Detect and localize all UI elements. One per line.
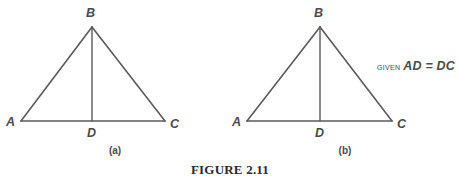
figure-canvas: B A C D (a) B A C D (b) GIVENAD = DC FIG…	[0, 0, 460, 186]
given-equation: AD = DC	[403, 59, 455, 73]
vertex-label-a: A	[232, 116, 241, 129]
segment-bc	[320, 27, 392, 121]
vertex-label-d: D	[315, 127, 324, 140]
vertex-label-c: C	[170, 118, 179, 131]
given-annotation: GIVENAD = DC	[377, 57, 455, 73]
given-keyword: GIVEN	[377, 64, 400, 71]
vertex-label-d: D	[87, 127, 96, 140]
segment-bc	[92, 27, 165, 121]
vertex-label-a: A	[6, 116, 15, 129]
figure-caption: FIGURE 2.11	[0, 163, 460, 177]
panel-sub-caption-b: (b)	[230, 146, 460, 156]
segment-ab	[247, 27, 320, 121]
segment-ab	[21, 27, 92, 121]
vertex-label-c: C	[397, 118, 406, 131]
figure-panel-a: B A C D (a)	[0, 0, 230, 165]
vertex-label-b: B	[314, 7, 323, 20]
figure-panel-b: B A C D (b)	[230, 0, 460, 165]
panel-sub-caption-a: (a)	[0, 146, 230, 156]
vertex-label-b: B	[86, 7, 95, 20]
triangle-diagram-b	[230, 0, 460, 150]
triangle-diagram-a	[0, 0, 230, 150]
